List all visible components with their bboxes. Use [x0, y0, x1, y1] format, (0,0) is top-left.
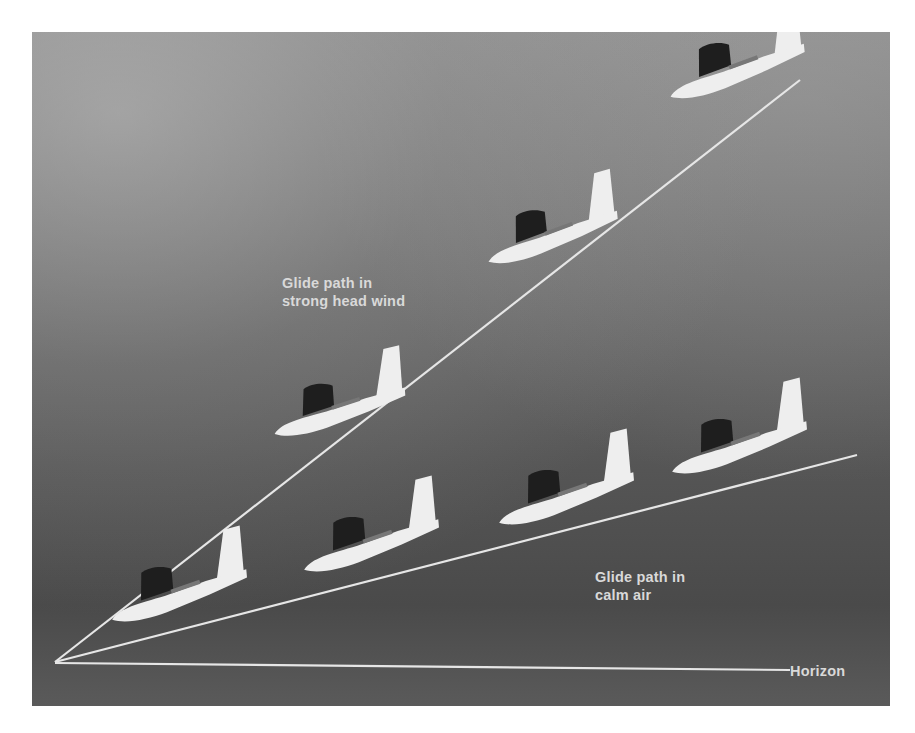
glider-icon	[105, 525, 250, 623]
calm-label: Glide path in calm air	[595, 568, 685, 604]
headwind-label-line2: strong head wind	[282, 292, 405, 310]
glider-icon	[480, 169, 621, 265]
glider-icon	[492, 428, 637, 526]
calm-label-line2: calm air	[595, 586, 685, 604]
horizon-label: Horizon	[790, 662, 845, 680]
glide-path-illustration: Glide path in strong head wind Glide pat…	[32, 32, 890, 706]
calm-glide-line	[55, 455, 857, 662]
headwind-label: Glide path in strong head wind	[282, 274, 405, 310]
horizon-line	[55, 663, 790, 670]
calm-label-line1: Glide path in	[595, 568, 685, 586]
glider-icon	[297, 475, 442, 573]
glider-icon	[269, 345, 407, 437]
diagram-canvas	[32, 32, 890, 706]
glider-icon	[665, 377, 810, 475]
headwind-label-line1: Glide path in	[282, 274, 405, 292]
